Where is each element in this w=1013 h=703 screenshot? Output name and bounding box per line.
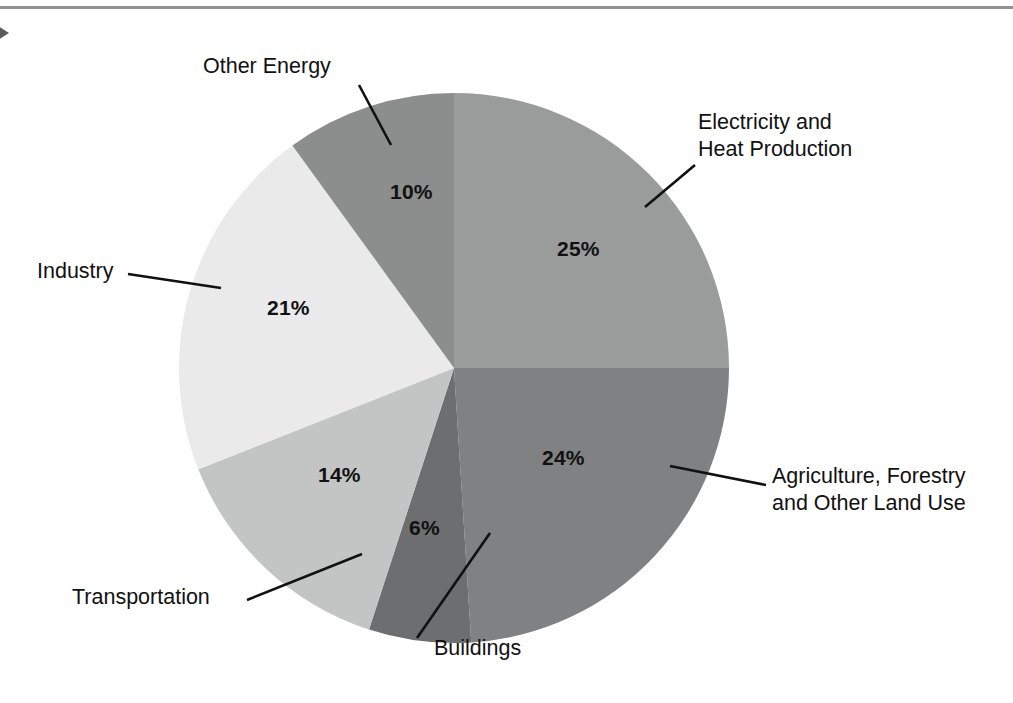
pie-label-buildings-line1: Buildings: [434, 636, 521, 660]
pie-label-transportation-line1: Transportation: [72, 585, 210, 609]
pie-label-other-energy[interactable]: Other Energy: [203, 53, 331, 80]
pie-label-agriculture-forestry-and-other-land-use[interactable]: Agriculture, Forestry and Other Land Use: [772, 463, 966, 517]
pie-label-industry-line1: Industry: [37, 259, 113, 283]
chart-page: 25% 24% 6% 14% 21% 10% Other Energy Elec…: [0, 0, 1013, 703]
pie-label-agriculture-forestry-and-other-land-use-line2: and Other Land Use: [772, 490, 966, 517]
pie-value-electricity-and-heat-production: 25%: [557, 237, 600, 261]
pie-label-electricity-and-heat-production-line2: Heat Production: [698, 136, 852, 163]
pie-label-electricity-and-heat-production-line1: Electricity and: [698, 109, 852, 136]
pie-label-agriculture-forestry-and-other-land-use-line1: Agriculture, Forestry: [772, 463, 966, 490]
pie-value-buildings: 6%: [409, 516, 440, 540]
pie-value-agriculture-forestry-and-other-land-use: 24%: [542, 446, 585, 470]
pie-label-electricity-and-heat-production[interactable]: Electricity and Heat Production: [698, 109, 852, 163]
pie-value-industry: 21%: [267, 296, 310, 320]
pie-slice-electricity-and-heat-production[interactable]: [454, 93, 729, 368]
pie-label-industry[interactable]: Industry: [37, 258, 113, 285]
pie-label-transportation[interactable]: Transportation: [72, 584, 210, 611]
pie-value-other-energy: 10%: [390, 180, 433, 204]
pie-slice-agriculture-forestry-and-other-land-use[interactable]: [454, 368, 729, 642]
pie-label-other-energy-line1: Other Energy: [203, 54, 331, 78]
pie-value-transportation: 14%: [318, 463, 361, 487]
pie-label-buildings[interactable]: Buildings: [434, 635, 521, 662]
